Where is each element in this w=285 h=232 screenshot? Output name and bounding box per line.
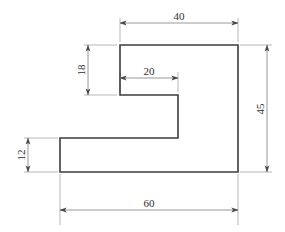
dim-label-45: 45 — [254, 103, 266, 115]
technical-drawing-canvas: 40 18 20 45 12 60 — [0, 0, 285, 232]
dim-label-40: 40 — [174, 10, 186, 22]
dimension-labels: 40 18 20 45 12 60 — [15, 10, 266, 209]
drawing-svg: 40 18 20 45 12 60 — [0, 0, 285, 232]
dim-label-20: 20 — [144, 65, 156, 77]
dim-label-12: 12 — [15, 150, 27, 161]
dimension-lines — [28, 23, 267, 210]
extension-lines — [24, 18, 272, 225]
dim-label-18: 18 — [75, 64, 87, 76]
dim-label-60: 60 — [144, 197, 156, 209]
